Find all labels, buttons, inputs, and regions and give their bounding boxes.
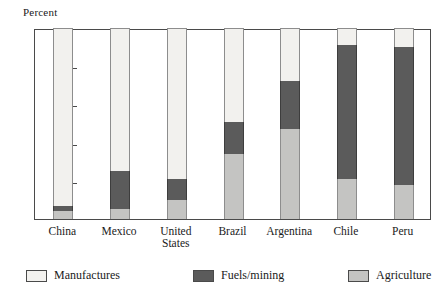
bar-chile [337, 28, 357, 219]
segment-agri [167, 200, 187, 219]
legend-label: Agriculture [376, 268, 431, 283]
bar-china [53, 28, 73, 219]
bar-united-states [167, 28, 187, 219]
y-axis-title: Percent [23, 6, 57, 18]
x-label-line: States [131, 237, 221, 249]
bar-mexico [110, 28, 130, 219]
segment-manu [280, 28, 300, 81]
segment-fuel [280, 81, 300, 129]
plot-area: 20406080 [34, 29, 431, 220]
segment-agri [53, 211, 73, 219]
segment-manu [337, 28, 357, 45]
segment-manu [110, 28, 130, 171]
segment-manu [53, 28, 73, 206]
legend-item-fuel[interactable]: Fuels/mining [193, 268, 284, 283]
x-label-line: Peru [358, 225, 438, 237]
legend-item-manu[interactable]: Manufactures [26, 268, 120, 283]
segment-manu [394, 28, 414, 47]
bar-peru [394, 28, 414, 219]
segment-agri [110, 209, 130, 219]
segment-manu [167, 28, 187, 179]
segment-fuel [167, 179, 187, 200]
bar-brazil [224, 28, 244, 219]
x-label-peru: Peru [358, 225, 438, 237]
segment-fuel [224, 122, 244, 154]
legend-swatch-manu [26, 270, 47, 282]
segment-manu [224, 28, 244, 122]
legend-swatch-agri [348, 270, 369, 282]
segment-agri [394, 185, 414, 219]
segment-fuel [394, 47, 414, 185]
chart-legend: ManufacturesFuels/miningAgriculture [0, 268, 438, 290]
segment-agri [337, 179, 357, 219]
segment-agri [280, 129, 300, 219]
segment-fuel [110, 171, 130, 209]
legend-label: Fuels/mining [221, 268, 284, 283]
legend-label: Manufactures [54, 268, 120, 283]
bar-argentina [280, 28, 300, 219]
stacked-bar-chart: Percent 20406080 ChinaMexicoUnitedStates… [0, 0, 438, 302]
segment-agri [224, 154, 244, 219]
legend-item-agri[interactable]: Agriculture [348, 268, 431, 283]
legend-swatch-fuel [193, 270, 214, 282]
segment-fuel [337, 45, 357, 179]
